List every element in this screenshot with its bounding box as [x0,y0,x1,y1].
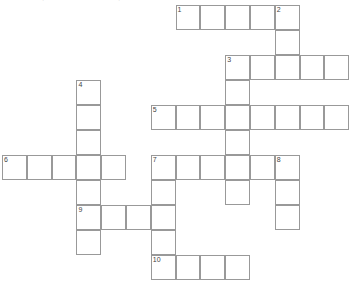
crossword-cell[interactable] [275,205,300,230]
crossword-cell[interactable] [151,205,176,230]
crossword-cell[interactable] [275,55,300,80]
crossword-cell[interactable] [27,155,52,180]
crossword-cell[interactable] [76,230,101,255]
crossword-cell[interactable]: 6 [2,155,27,180]
crossword-cell[interactable]: 5 [151,105,176,130]
cell-number-label: 1 [178,6,182,14]
crossword-cell[interactable] [225,105,250,130]
crossword-cell[interactable]: 2 [275,5,300,30]
cell-number-label: 3 [227,56,231,64]
crossword-cell[interactable]: 4 [76,80,101,105]
crossword-cell[interactable] [225,80,250,105]
crossword-cell[interactable] [275,180,300,205]
cropped-text-artifact: · [42,0,44,1]
crossword-cell[interactable]: 9 [76,205,101,230]
crossword-cell[interactable] [225,180,250,205]
crossword-cell[interactable] [324,55,349,80]
crossword-cell[interactable]: 3 [225,55,250,80]
crossword-cell[interactable] [151,180,176,205]
crossword-cell[interactable] [324,105,349,130]
crossword-cell[interactable] [101,205,126,230]
cell-number-label: 7 [153,156,157,164]
crossword-cell[interactable] [225,255,250,280]
crossword-cell[interactable] [200,5,225,30]
crossword-cell[interactable] [176,105,201,130]
cell-number-label: 5 [153,106,157,114]
crossword-cell[interactable] [200,155,225,180]
crossword-cell[interactable] [176,255,201,280]
crossword-cell[interactable] [52,155,77,180]
crossword-cell[interactable] [300,105,325,130]
crossword-cell[interactable] [76,180,101,205]
crossword-cell[interactable] [275,30,300,55]
cell-number-label: 4 [78,81,82,89]
crossword-cell[interactable]: 8 [275,155,300,180]
crossword-cell[interactable] [300,55,325,80]
crossword-cell[interactable] [151,230,176,255]
crossword-cell[interactable] [76,155,101,180]
crossword-cell[interactable] [76,130,101,155]
cell-number-label: 2 [277,6,281,14]
crossword-cell[interactable] [250,5,275,30]
cropped-text-artifact: · [118,0,120,1]
crossword-cell[interactable] [176,155,201,180]
crossword-cell[interactable]: 10 [151,255,176,280]
crossword-cell[interactable] [225,130,250,155]
crossword-grid[interactable]: 12345678910·· [0,0,350,281]
cell-number-label: 6 [4,156,8,164]
crossword-cell[interactable]: 1 [176,5,201,30]
crossword-cell[interactable] [250,105,275,130]
crossword-cell[interactable] [250,155,275,180]
crossword-cell[interactable] [200,255,225,280]
crossword-cell[interactable] [200,105,225,130]
crossword-cell[interactable] [225,155,250,180]
crossword-cell[interactable] [101,155,126,180]
crossword-cell[interactable] [275,105,300,130]
cell-number-label: 10 [153,256,161,264]
crossword-cell[interactable]: 7 [151,155,176,180]
crossword-cell[interactable] [126,205,151,230]
crossword-cell[interactable] [250,55,275,80]
crossword-cell[interactable] [225,5,250,30]
crossword-cell[interactable] [76,105,101,130]
cell-number-label: 8 [277,156,281,164]
cell-number-label: 9 [78,206,82,214]
